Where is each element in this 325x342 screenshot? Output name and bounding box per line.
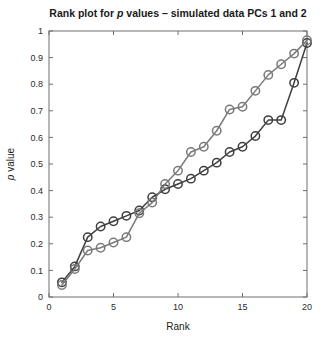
x-tick-label: 15: [237, 302, 247, 312]
figure-container: Rank plot for p values – simulated data …: [0, 0, 325, 342]
y-axis-label: p value: [5, 147, 16, 181]
y-tick-label: 0: [38, 292, 43, 302]
y-tick-label: 0.6: [30, 133, 43, 143]
y-tick-label: 0.9: [30, 53, 43, 63]
x-tick-label: 20: [302, 302, 312, 312]
y-tick-label: 0.3: [30, 212, 43, 222]
y-tick-label: 0.2: [30, 239, 43, 249]
x-tick-label: 0: [46, 302, 51, 312]
chart-title: Rank plot for p values – simulated data …: [49, 7, 306, 19]
y-tick-label: 0.8: [30, 79, 43, 89]
y-tick-label: 0.4: [30, 186, 43, 196]
x-tick-label: 5: [111, 302, 116, 312]
y-tick-label: 0.1: [30, 266, 43, 276]
x-axis-label: Rank: [166, 321, 190, 332]
y-tick-label: 0.5: [30, 159, 43, 169]
x-tick-label: 10: [173, 302, 183, 312]
y-tick-label: 1: [38, 26, 43, 36]
y-tick-label: 0.7: [30, 106, 43, 116]
rank-plot-chart: Rank plot for p values – simulated data …: [0, 0, 325, 342]
